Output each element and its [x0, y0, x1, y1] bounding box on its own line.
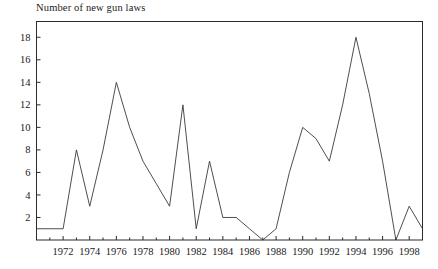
y-tick-label: 8 — [25, 144, 30, 155]
x-tick-label: 1976 — [106, 246, 127, 257]
y-tick-label: 12 — [20, 99, 31, 110]
y-tick-label: 10 — [20, 122, 31, 133]
data-line-series — [37, 37, 423, 240]
y-tick-label: 14 — [20, 77, 31, 88]
x-tick-label: 1994 — [345, 246, 367, 257]
plot-frame-rect — [37, 22, 423, 241]
x-tick-label: 1982 — [186, 246, 207, 257]
chart-page: Number of new gun laws 24681012141618 19… — [0, 0, 438, 269]
plot-area: 24681012141618 1972197419761978198019821… — [0, 0, 438, 269]
x-tick-label: 1986 — [239, 246, 260, 257]
y-tick-label: 18 — [20, 32, 31, 43]
y-axis-ticks — [37, 37, 41, 217]
x-tick-label: 1980 — [159, 246, 180, 257]
x-tick-label: 1978 — [132, 246, 153, 257]
line-chart-svg: 24681012141618 1972197419761978198019821… — [0, 0, 438, 269]
x-tick-label: 1990 — [292, 246, 313, 257]
x-tick-label: 1988 — [266, 246, 287, 257]
y-tick-label: 6 — [25, 167, 30, 178]
x-tick-label: 1996 — [372, 246, 393, 257]
y-tick-label: 2 — [25, 212, 30, 223]
y-tick-label: 16 — [20, 54, 31, 65]
x-axis-tick-labels: 1972197419761978198019821984198619881990… — [53, 246, 420, 257]
y-axis-tick-labels: 24681012141618 — [20, 32, 31, 223]
x-tick-label: 1998 — [399, 246, 420, 257]
y-tick-label: 4 — [25, 190, 31, 201]
x-tick-label: 1974 — [79, 246, 101, 257]
x-tick-label: 1992 — [319, 246, 340, 257]
x-tick-label: 1984 — [212, 246, 234, 257]
plot-frame — [37, 22, 423, 241]
x-tick-label: 1972 — [53, 246, 74, 257]
